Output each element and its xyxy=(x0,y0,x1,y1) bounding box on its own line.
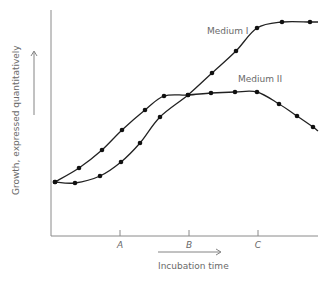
data-point xyxy=(280,20,285,25)
data-point xyxy=(143,108,148,113)
data-point xyxy=(138,141,143,146)
data-point xyxy=(53,180,58,185)
medium-2-points xyxy=(53,90,316,185)
data-point xyxy=(100,148,105,153)
data-point xyxy=(158,115,163,120)
data-point xyxy=(186,93,191,98)
tick-label-b: B xyxy=(186,240,192,250)
data-point xyxy=(98,174,103,179)
medium-1-points xyxy=(53,20,313,186)
data-point xyxy=(277,102,282,107)
x-axis-label: Incubation time xyxy=(158,261,229,271)
growth-chart: A B C Incubation time Growth, expressed … xyxy=(0,0,335,285)
data-point xyxy=(255,90,260,95)
tick-label-c: C xyxy=(255,240,262,250)
data-point xyxy=(77,166,82,171)
y-axis-label: Growth, expressed quantitatively xyxy=(11,45,21,195)
data-point xyxy=(119,160,124,165)
medium-1-label: Medium I xyxy=(207,26,249,36)
data-point xyxy=(233,90,238,95)
data-point xyxy=(295,114,300,119)
data-point xyxy=(209,91,214,96)
data-point xyxy=(308,20,313,25)
tick-label-a: A xyxy=(116,240,123,250)
data-point xyxy=(234,49,239,54)
data-point xyxy=(162,94,167,99)
data-point xyxy=(120,128,125,133)
data-point xyxy=(255,26,260,31)
medium-2-label: Medium II xyxy=(238,74,282,84)
data-point xyxy=(311,125,316,130)
data-point xyxy=(73,181,78,186)
data-point xyxy=(210,71,215,76)
